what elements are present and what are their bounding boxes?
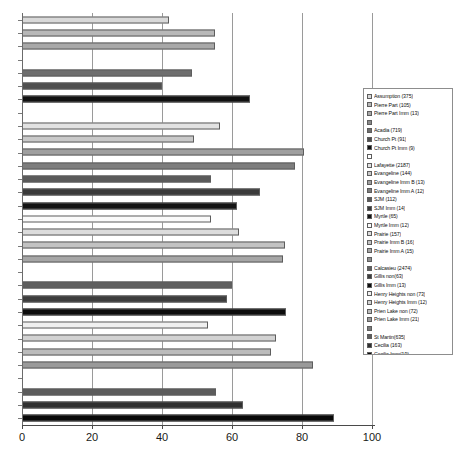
bar-Prairie (157) — [22, 229, 239, 236]
legend-item-label: Acadia (719) — [374, 126, 402, 135]
y-tick — [18, 99, 22, 100]
bar-row — [22, 279, 372, 292]
legend-swatch-icon — [367, 188, 372, 193]
bar-Prairie Imm A (15) — [22, 255, 283, 262]
legend-item: Pierre Part (105) — [367, 101, 450, 110]
bar-row — [22, 172, 372, 185]
y-tick — [18, 272, 22, 273]
legend-item-label: Gillis non(63) — [374, 272, 403, 281]
legend-item: Acadia (719) — [367, 126, 450, 135]
legend-swatch-icon — [367, 291, 372, 296]
legend-swatch-icon — [367, 240, 372, 245]
legend-item: Evangeline Imm B (13) — [367, 178, 450, 187]
legend-item: St Martin(635) — [367, 333, 450, 342]
bar-Evangeline (144) — [22, 136, 194, 143]
legend-swatch-icon — [367, 300, 372, 305]
legend-item: Lafayette (2187) — [367, 161, 450, 170]
y-tick — [18, 73, 22, 74]
x-tick-label-20: 20 — [72, 431, 112, 444]
legend-item: Calcasieu (2474) — [367, 264, 450, 273]
legend-item-label: Evangeline Imm B (13) — [374, 178, 425, 187]
legend-item: Myrtle Imm (12) — [367, 221, 450, 230]
legend-swatch-icon — [367, 231, 372, 236]
legend-item: Gillis Imm (13) — [367, 281, 450, 290]
legend-item-label: Pierre Part Imm (13) — [374, 109, 419, 118]
y-tick — [18, 60, 22, 61]
x-tick-mark-80 — [302, 425, 303, 429]
bar-Myrtle (65) — [22, 202, 237, 209]
x-tick-mark-100 — [372, 425, 373, 429]
bar-row — [22, 252, 372, 265]
x-tick-label-0: 0 — [2, 431, 42, 444]
y-tick — [18, 166, 22, 167]
x-tick-label-40: 40 — [142, 431, 182, 444]
legend-swatch-icon — [367, 309, 372, 314]
legend-item: Cecilia Imm(19) — [367, 350, 450, 355]
bar-Prien Lake Imm (21) — [22, 361, 313, 368]
x-tick-label-60: 60 — [212, 431, 252, 444]
bar-Evangeline Imm A (12) — [22, 162, 295, 169]
legend-swatch-icon — [367, 94, 372, 99]
bar-row — [22, 332, 372, 345]
y-tick — [18, 312, 22, 313]
y-tick — [18, 46, 22, 47]
bar-row — [22, 199, 372, 212]
bar-Gillis Imm (13) — [22, 308, 286, 315]
bar-Henry Heights non (73) — [22, 322, 208, 329]
legend-item-label: Evangeline (144) — [374, 169, 412, 178]
legend-swatch-icon — [367, 154, 372, 159]
legend-item: Prairie Imm B (16) — [367, 238, 450, 247]
legend-item: Evangeline Imm A (12) — [367, 187, 450, 196]
bar-row — [22, 159, 372, 172]
y-tick — [18, 246, 22, 247]
legend-item: Church Pt Imm (9) — [367, 144, 450, 153]
legend-item: Evangeline (144) — [367, 169, 450, 178]
bar-Pierre Part Imm (13) — [22, 43, 215, 50]
legend-item: Church Pt (91) — [367, 135, 450, 144]
y-tick — [18, 33, 22, 34]
legend-item: Prien Lake non (72) — [367, 307, 450, 316]
legend-item: Pierre Part Imm (13) — [367, 109, 450, 118]
legend-swatch-icon — [367, 206, 372, 211]
x-axis — [22, 425, 375, 426]
legend-item-label: Prien Lake non (72) — [374, 307, 418, 316]
bar-row — [22, 398, 372, 411]
legend-item-label: Calcasieu (2474) — [374, 264, 412, 273]
bar-row — [22, 318, 372, 331]
legend-swatch-icon — [367, 120, 372, 125]
legend-swatch-icon — [367, 334, 372, 339]
y-tick — [18, 179, 22, 180]
bar-Pierre Part (105) — [22, 29, 215, 36]
bar-Henry Heights Imm (12) — [22, 335, 276, 342]
y-axis — [22, 13, 23, 425]
legend-swatch-icon — [367, 274, 372, 279]
legend-swatch-icon — [367, 145, 372, 150]
bar-row — [22, 226, 372, 239]
y-tick — [18, 418, 22, 419]
legend-swatch-icon — [367, 102, 372, 107]
legend-item: Prien Lake Imm (21) — [367, 315, 450, 324]
legend-item — [367, 255, 450, 264]
x-tick-mark-20 — [92, 425, 93, 429]
bar-row — [22, 265, 372, 278]
y-tick — [18, 139, 22, 140]
y-tick — [18, 339, 22, 340]
legend-item: Prairie (157) — [367, 230, 450, 239]
x-tick-mark-0 — [22, 425, 23, 429]
bar-Calcasieu (2474) — [22, 282, 232, 289]
y-tick — [18, 113, 22, 114]
legend-swatch-icon — [367, 223, 372, 228]
y-tick — [18, 352, 22, 353]
bar-Prien Lake non (72) — [22, 348, 271, 355]
bar-row — [22, 40, 372, 53]
legend-item: Prairie Imm A (15) — [367, 247, 450, 256]
bar-row — [22, 239, 372, 252]
bar-row — [22, 93, 372, 106]
bar-Assumption (375) — [22, 16, 169, 23]
y-tick — [18, 392, 22, 393]
bar-row — [22, 13, 372, 26]
legend-swatch-icon — [367, 180, 372, 185]
bar-row — [22, 146, 372, 159]
bar-row — [22, 133, 372, 146]
legend-item-label: Prairie Imm A (15) — [374, 247, 414, 256]
